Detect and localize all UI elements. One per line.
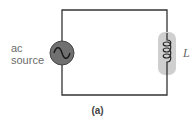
source-label-line2: source xyxy=(11,54,44,66)
wires xyxy=(62,10,167,95)
source-label: ac source xyxy=(11,42,44,66)
inductor-coil-icon xyxy=(158,32,176,75)
inductor-label: L xyxy=(183,47,190,59)
ac-source-icon xyxy=(50,41,74,65)
source-label-line1: ac xyxy=(11,42,44,54)
figure-caption: (a) xyxy=(0,105,195,116)
